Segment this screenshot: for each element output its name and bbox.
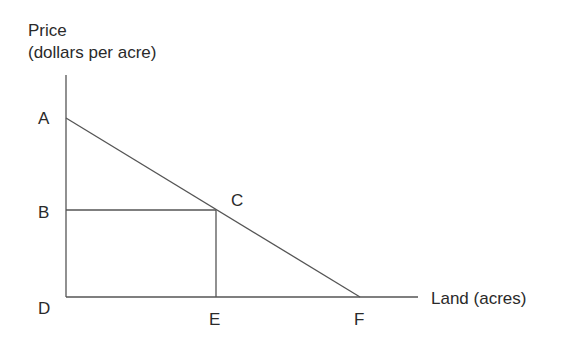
point-label-e: E (209, 311, 220, 328)
y-axis-label-units: (dollars per acre) (28, 44, 157, 61)
demand-line-AF (66, 118, 360, 297)
point-label-a: A (38, 110, 49, 127)
x-axis-label: Land (acres) (431, 290, 526, 307)
point-label-b: B (38, 204, 49, 221)
point-label-c: C (231, 192, 243, 209)
point-label-f: F (354, 311, 364, 328)
point-label-d: D (38, 300, 50, 317)
y-axis-label-price: Price (28, 22, 67, 39)
